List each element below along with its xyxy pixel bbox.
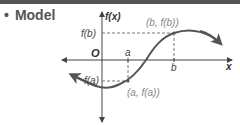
function-graph: f(x) x O f(b) f(a) a b (b, f(b)) (a, f(a… [0,0,240,125]
fa-label: f(a) [84,75,99,86]
point-a-label: (a, f(a)) [127,87,160,98]
point-b [173,32,176,35]
a-label: a [125,47,131,58]
fb-label: f(b) [81,28,96,39]
point-a [127,80,130,83]
b-label: b [171,62,177,73]
point-b-label: (b, f(b)) [146,17,179,28]
y-axis-label: f(x) [105,11,121,22]
x-axis-label: x [225,61,232,72]
origin-label: O [91,47,100,59]
